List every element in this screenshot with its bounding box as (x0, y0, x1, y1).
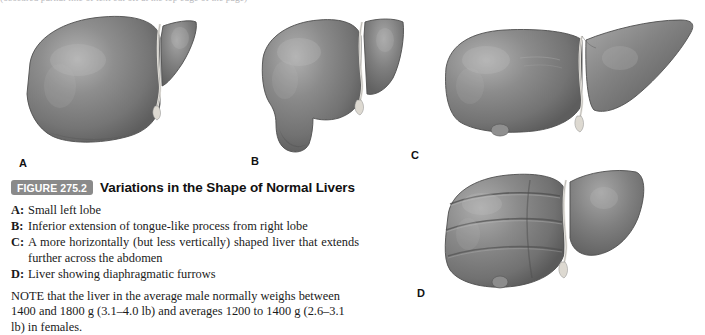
figure-caption-block: FIGURE 275.2 Variations in the Shape of … (11, 179, 359, 335)
legend-desc-c: A more horizontally (but less vertically… (28, 235, 359, 265)
legend-key-d: D: (11, 267, 24, 282)
panel-letter-b: B (251, 155, 259, 167)
legend-desc-a: Small left lobe (28, 203, 359, 218)
panel-letter-c: C (411, 149, 419, 161)
legend-key-a: A: (11, 203, 24, 218)
legend-desc-d: Liver showing diaphragmatic furrows (28, 267, 359, 282)
figure-legend-list: A: Small left lobe B: Inferior extension… (11, 203, 359, 282)
figure-title-row: FIGURE 275.2 Variations in the Shape of … (11, 179, 359, 196)
panel-letter-d: D (417, 287, 425, 299)
liver-illustration-d (434, 158, 702, 304)
figure-title: Variations in the Shape of Normal Livers (100, 180, 355, 195)
legend-key-b: B: (11, 219, 23, 234)
legend-item-a: A: Small left lobe (11, 203, 359, 218)
legend-desc-b: Inferior extension of tongue-like proces… (28, 219, 359, 234)
figure-note: NOTE that the liver in the average male … (11, 289, 353, 335)
legend-key-c: C: (11, 235, 24, 250)
liver-illustration-b (243, 10, 411, 158)
liver-illustration-c (424, 6, 702, 148)
legend-item-b: B: Inferior extension of tongue-like pro… (11, 219, 359, 234)
figure-number-badge: FIGURE 275.2 (11, 180, 93, 195)
panel-letter-a: A (19, 157, 27, 169)
liver-illustration-a (8, 8, 240, 156)
legend-item-d: D: Liver showing diaphragmatic furrows (11, 267, 359, 282)
top-cutoff-text: (obscured partial line of text cut off a… (0, 0, 705, 5)
legend-item-c: C: A more horizontally (but less vertica… (11, 235, 359, 265)
